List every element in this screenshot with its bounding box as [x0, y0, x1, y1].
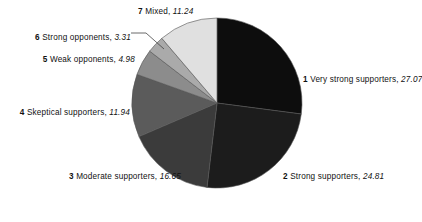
pie-label-very-strong-supporters: 1Very strong supporters, 27.07 — [303, 75, 422, 85]
pie-label-index: 5 — [43, 55, 48, 64]
pie-label-moderate-supporters: 3Moderate supporters, 16.65 — [69, 172, 181, 182]
pie-label-strong-opponents: 6Strong opponents, 3.31 — [35, 33, 131, 43]
pie-label-value: 27.07 — [401, 75, 422, 84]
pie-label-value: 11.24 — [173, 7, 194, 16]
pie-label-name: Skeptical supporters — [27, 108, 104, 117]
pie-label-name: Strong supporters — [290, 172, 358, 181]
pie-label-skeptical-supporters: 4Skeptical supporters, 11.94 — [20, 108, 130, 118]
pie-label-index: 1 — [303, 75, 308, 84]
pie-label-mixed: 7Mixed, 11.24 — [138, 7, 193, 17]
pie-label-weak-opponents: 5Weak opponents, 4.98 — [43, 55, 135, 65]
pie-slice-very-strong-supporters[interactable] — [217, 18, 302, 114]
pie-label-name: Very strong supporters — [310, 75, 396, 84]
pie-label-name: Mixed — [145, 7, 168, 16]
pie-label-value: 3.31 — [114, 33, 131, 42]
pie-label-name: Moderate supporters — [76, 172, 155, 181]
pie-label-index: 6 — [35, 33, 40, 42]
pie-label-value: 4.98 — [118, 55, 135, 64]
pie-label-name: Weak opponents — [50, 55, 114, 64]
pie-label-index: 7 — [138, 7, 143, 16]
pie-label-index: 2 — [283, 172, 288, 181]
pie-label-index: 4 — [20, 108, 25, 117]
pie-label-value: 16.65 — [160, 172, 181, 181]
pie-label-strong-supporters: 2Strong supporters, 24.81 — [283, 172, 384, 182]
pie-label-name: Strong opponents — [42, 33, 109, 42]
pie-label-value: 24.81 — [363, 172, 384, 181]
pie-label-value: 11.94 — [109, 108, 130, 117]
pie-label-index: 3 — [69, 172, 74, 181]
